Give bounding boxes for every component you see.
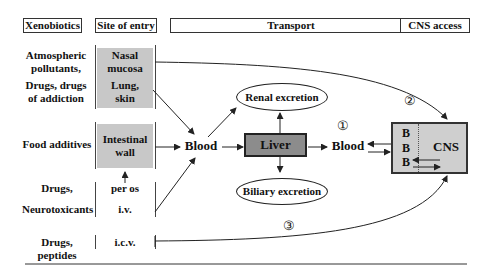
arrow-route-3 [155, 176, 447, 241]
arrow-lung-blood [153, 90, 194, 134]
arrow-blood-renal [208, 108, 236, 137]
arrow-route-2 [155, 62, 447, 119]
arrow-layer [0, 0, 493, 269]
arrow-iv-blood [155, 158, 195, 212]
